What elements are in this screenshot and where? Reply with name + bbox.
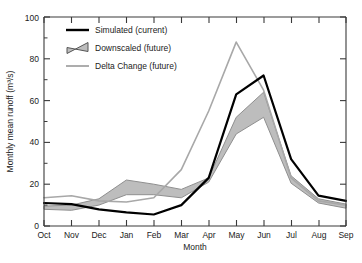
- x-tick-label-jun: Jun: [257, 230, 271, 240]
- x-tick-label-jul: Jul: [286, 230, 297, 240]
- y-tick-label-40: 40: [30, 137, 40, 147]
- x-tick-label-sep: Sep: [338, 230, 353, 240]
- runoff-line-chart: 0 20 40 60 80 100 Oct Nov Dec Jan Feb Ma…: [0, 0, 362, 263]
- figure-container: 0 20 40 60 80 100 Oct Nov Dec Jan Feb Ma…: [0, 0, 362, 263]
- x-tick-label-apr: Apr: [202, 230, 215, 240]
- x-tick-label-jan: Jan: [120, 230, 134, 240]
- y-tick-label-100: 100: [25, 13, 39, 23]
- x-tick-label-nov: Nov: [64, 230, 80, 240]
- y-axis-title: Monthly mean runoff (m³/s): [5, 70, 15, 172]
- x-axis-tick-labels: Oct Nov Dec Jan Feb Mar Apr May Jun Jul …: [37, 230, 353, 240]
- plot-area-background: [44, 17, 346, 226]
- y-tick-label-60: 60: [30, 96, 40, 106]
- x-tick-label-oct: Oct: [37, 230, 51, 240]
- x-tick-label-feb: Feb: [147, 230, 162, 240]
- y-tick-label-20: 20: [30, 179, 40, 189]
- legend-label-downscaled: Downscaled (future): [95, 43, 171, 53]
- x-tick-label-aug: Aug: [311, 230, 326, 240]
- x-tick-label-may: May: [228, 230, 245, 240]
- legend-label-simulated: Simulated (current): [95, 25, 167, 35]
- x-axis-title: Month: [183, 242, 207, 252]
- x-tick-label-mar: Mar: [174, 230, 189, 240]
- y-axis-tick-labels: 0 20 40 60 80 100: [25, 13, 39, 232]
- y-tick-label-80: 80: [30, 54, 40, 64]
- x-tick-label-dec: Dec: [91, 230, 107, 240]
- legend-label-delta-change: Delta Change (future): [95, 61, 177, 71]
